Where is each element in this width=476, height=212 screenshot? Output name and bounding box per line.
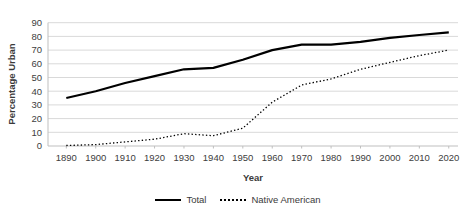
series-line-native-american <box>66 50 449 145</box>
x-tick-label: 1980 <box>321 152 342 163</box>
y-tick-label: 70 <box>31 44 42 55</box>
y-axis-title: Percentage Urban <box>6 43 17 124</box>
y-tick-label: 10 <box>31 127 42 138</box>
x-tick-label: 1940 <box>203 152 224 163</box>
x-tick-label: 1990 <box>350 152 371 163</box>
legend-item-native-american: Native American <box>220 194 320 205</box>
x-tick-label: 1920 <box>144 152 165 163</box>
y-tick-label: 20 <box>31 113 42 124</box>
urbanization-line-chart: Percentage Urban 01020304050607080901890… <box>0 0 476 212</box>
x-tick-label: 1950 <box>232 152 253 163</box>
y-tick-label: 90 <box>31 17 42 28</box>
gridlines <box>48 23 458 133</box>
y-tick-label: 30 <box>31 99 42 110</box>
legend-label-total: Total <box>186 194 206 205</box>
y-tick-label: 40 <box>31 86 42 97</box>
y-tick-label: 80 <box>31 31 42 42</box>
series-line-total <box>66 32 449 98</box>
legend-dotted-line-swatch <box>220 199 246 201</box>
legend-label-native-american: Native American <box>251 194 320 205</box>
x-tick-label: 1960 <box>262 152 283 163</box>
y-tick-label: 50 <box>31 72 42 83</box>
y-tick-label: 60 <box>31 58 42 69</box>
legend-solid-line-swatch <box>155 199 181 201</box>
y-axis-tick-labels: 0102030405060708090 <box>31 17 42 151</box>
x-axis-title: Year <box>243 172 263 183</box>
x-tick-label: 1910 <box>115 152 136 163</box>
x-tick-label: 1890 <box>56 152 77 163</box>
x-axis-tick-labels: 1890190019101920193019401950196019701980… <box>56 146 460 163</box>
x-tick-label: 2010 <box>409 152 430 163</box>
x-tick-label: 2000 <box>379 152 400 163</box>
y-tick-label: 0 <box>37 140 42 151</box>
legend-item-total: Total <box>155 194 206 205</box>
x-tick-label: 2020 <box>438 152 459 163</box>
x-tick-label: 1900 <box>85 152 106 163</box>
x-tick-label: 1970 <box>291 152 312 163</box>
x-tick-label: 1930 <box>173 152 194 163</box>
plot-area: 0102030405060708090189019001910192019301… <box>0 0 476 212</box>
legend: Total Native American <box>0 194 476 205</box>
